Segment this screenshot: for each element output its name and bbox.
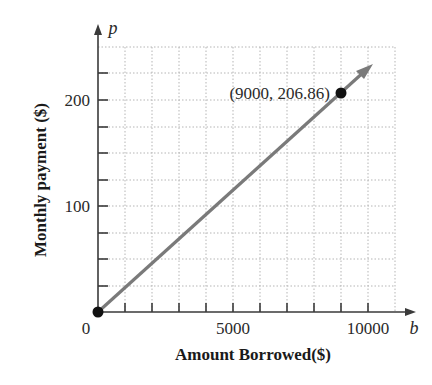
x-ticks: [125, 303, 368, 312]
x-axis-arrow-icon: [405, 308, 416, 316]
y-axis-title: Monthly payment ($): [31, 103, 50, 257]
x-tick-label-5000: 5000: [216, 319, 250, 338]
x-tick-label-10000: 10000: [347, 319, 390, 338]
data-point-9000: [336, 88, 347, 99]
y-ticks: [98, 73, 108, 286]
x-tick-label-0: 0: [82, 319, 91, 338]
data-point-origin: [93, 307, 104, 318]
x-axis-variable: b: [410, 318, 419, 338]
y-tick-label-200: 200: [65, 91, 91, 110]
y-axis-arrow-icon: [94, 24, 102, 35]
chart-canvas: (9000, 206.86) 0 5000 10000 b 200 100 p …: [0, 0, 432, 385]
y-axis-variable: p: [107, 18, 118, 38]
point-annotation: (9000, 206.86): [229, 84, 330, 103]
y-tick-label-100: 100: [65, 197, 91, 216]
x-axis-title: Amount Borrowed($): [175, 345, 331, 364]
